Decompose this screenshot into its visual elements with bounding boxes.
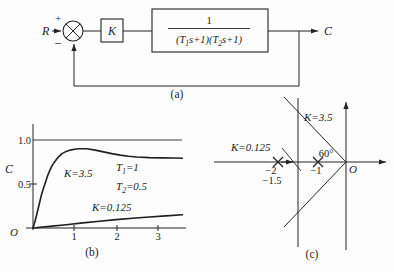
t1-parameter-label: T1=1 [116,161,139,176]
locus-low-gain-label: K=0.125 [230,141,271,153]
summing-plus-sign: + [55,12,61,24]
xtick-1-label: 1 [71,231,76,242]
locus-origin-label: O [349,163,357,175]
summing-minus-sign: − [54,36,61,51]
block-diagram: R + − K 1 (T1s+1)(T2s+1) C (a) [41,9,333,101]
response-curve-K=0.125 [33,215,182,228]
figure-svg: R + − K 1 (T1s+1)(T2s+1) C (a) 1.0 0.5 C… [0,0,394,272]
t2-parameter-label: T2=0.5 [116,180,148,195]
plot-origin-label: O [10,226,18,238]
damping-line-upper [284,97,346,162]
ytick-05-label: 0.5 [18,179,31,190]
caption-a: (a) [171,88,184,101]
y-axis-label: C [5,162,14,176]
xtick-3-label: 3 [155,231,160,242]
tf-denominator: (T1s+1)(T2s+1) [176,34,243,48]
output-signal-label: C [324,24,333,38]
summing-junction-icon [63,21,83,41]
input-signal-label: R [41,24,50,38]
step-curves [33,149,182,228]
step-response-plot: 1.0 0.5 C O 1 2 3 K=3.5 K=0.125 T1=1 T2=… [5,124,186,259]
ytick-10-label: 1.0 [18,135,31,146]
xtick-2-label: 2 [114,231,119,242]
locus-high-gain-label: K=3.5 [303,111,333,123]
angle-label: 60° [319,148,334,159]
tf-numerator: 1 [206,15,211,26]
high-gain-curve-label: K=3.5 [63,167,93,179]
low-gain-curve-label: K=0.125 [91,201,132,213]
root-locus-plot: K=0.125 K=3.5 60° O −2 −1.5 −1 (c) [214,97,386,261]
caption-c: (c) [306,248,319,261]
caption-b: (b) [85,246,99,259]
textbook-figure: R + − K 1 (T1s+1)(T2s+1) C (a) 1.0 0.5 C… [0,0,394,272]
pole-minus1-label: −1 [310,165,321,176]
gain-block-label: K [107,24,117,38]
breakaway-label: −1.5 [262,175,281,186]
